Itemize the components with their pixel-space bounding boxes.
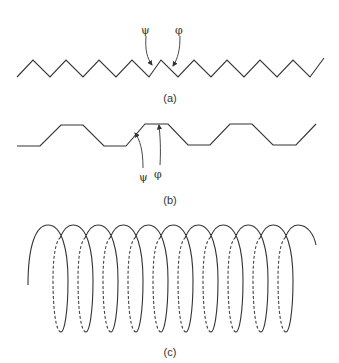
diagram-canvas: ψ φ (a) ψ φ (b) (c): [0, 0, 339, 363]
zigzag-backbone: [17, 58, 324, 77]
helix-back-segment: [178, 238, 186, 332]
helix-back-segment: [103, 238, 111, 332]
helix-coil: [28, 225, 316, 332]
psi-arrow: [146, 36, 152, 65]
helix-front-segment: [28, 225, 316, 332]
helix-back-segment: [253, 238, 261, 332]
helix-back-segment: [128, 238, 136, 332]
pleated-backbone: [17, 124, 316, 146]
helix-back-segment: [153, 238, 161, 332]
helix-back-segment: [78, 238, 86, 332]
phi-label-b: φ: [154, 168, 162, 181]
caption-b: (b): [163, 194, 176, 206]
psi-label-b: ψ: [139, 171, 148, 184]
phi-arrow-b: [159, 125, 160, 165]
psi-arrow-b: [135, 133, 143, 168]
psi-label: ψ: [141, 24, 150, 37]
helix-back-segment: [203, 238, 211, 332]
caption-c: (c): [164, 346, 177, 358]
helix-back-segment: [278, 238, 286, 332]
phi-arrow: [173, 36, 180, 66]
phi-label: φ: [175, 24, 183, 37]
panel-c: (c): [28, 225, 316, 358]
helix-back-segment: [53, 238, 61, 332]
helix-back-segment: [228, 238, 236, 332]
panel-a: ψ φ (a): [17, 24, 324, 104]
panel-b: ψ φ (b): [17, 124, 316, 206]
caption-a: (a): [163, 92, 176, 104]
